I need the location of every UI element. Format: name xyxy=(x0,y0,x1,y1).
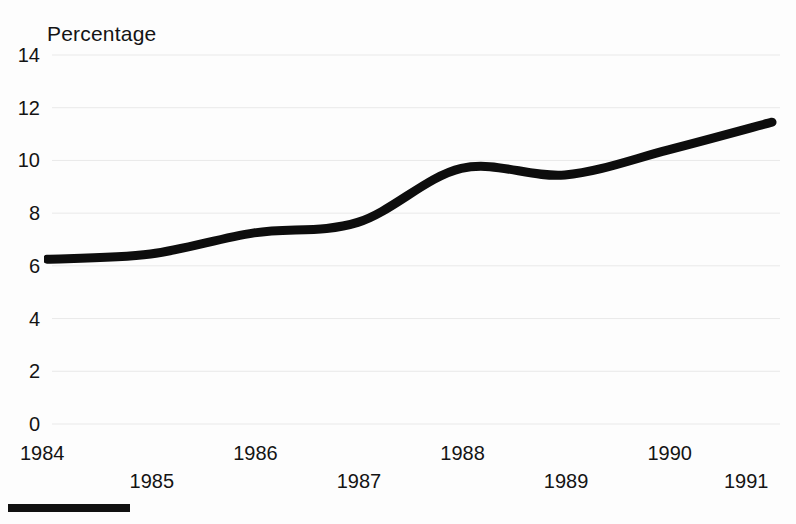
x-tick-label-1989: 1989 xyxy=(544,470,589,493)
x-tick-label-1991: 1991 xyxy=(724,470,769,493)
y-tick-label-14: 14 xyxy=(6,44,40,67)
y-tick-label-12: 12 xyxy=(6,96,40,119)
bottom-rule xyxy=(8,504,130,512)
x-tick-label-1990: 1990 xyxy=(647,442,692,465)
y-tick-label-6: 6 xyxy=(6,254,40,277)
plot-area xyxy=(44,40,784,440)
chart-figure: Percentage 14121086420 19841985198619871… xyxy=(0,0,796,524)
y-tick-label-2: 2 xyxy=(6,360,40,383)
x-tick-label-1988: 1988 xyxy=(440,442,485,465)
x-tick-label-1985: 1985 xyxy=(130,470,175,493)
series-line-percentage xyxy=(47,122,772,259)
line-chart-svg xyxy=(44,40,784,440)
y-tick-label-4: 4 xyxy=(6,307,40,330)
x-tick-label-1984: 1984 xyxy=(20,442,65,465)
y-tick-label-8: 8 xyxy=(6,202,40,225)
gridlines xyxy=(52,55,780,424)
y-tick-label-0: 0 xyxy=(6,413,40,436)
x-tick-label-1986: 1986 xyxy=(233,442,278,465)
x-tick-label-1987: 1987 xyxy=(337,470,382,493)
y-tick-label-10: 10 xyxy=(6,149,40,172)
